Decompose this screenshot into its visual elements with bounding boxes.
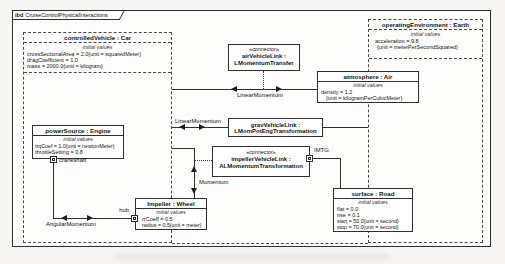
- port-inner-icon: [308, 157, 311, 160]
- value-line: {unit = kilogramPerCubicMeter}: [318, 95, 418, 101]
- connector-gravlink-earth: [323, 127, 368, 128]
- port-inner-icon: [133, 217, 136, 220]
- connector-binding-impellerlink: [195, 160, 212, 161]
- port-label-hub: hub: [112, 207, 129, 213]
- part-title: powerSource : Engine: [33, 126, 123, 136]
- part-title: atmosphere : Air: [318, 72, 418, 82]
- diagram-frame-tab: ibdCruiseControlPhysicalInteractions: [12, 10, 116, 20]
- connector-binding-airlink: [263, 71, 264, 89]
- caption-smudge: [115, 254, 390, 259]
- itemflow-arrow-left-icon: [179, 124, 185, 130]
- itemflow-arrow-down-icon: [191, 188, 197, 194]
- value-line: trqCoef = 1.0{unit = newtonMeter}: [33, 143, 123, 149]
- port-label-imtg: IMTG: [314, 147, 329, 153]
- port-hub: [131, 215, 138, 222]
- port-inner-icon: [52, 158, 55, 161]
- port-imtg: [306, 155, 313, 162]
- frame-title-label: CruiseControlPhysicalInteractions: [25, 12, 108, 18]
- connector-type: LMomentumTransfer: [229, 60, 299, 67]
- value-line: mass = 2000.0{unit = kilogram}: [24, 63, 171, 69]
- part-title: operatingEnvironment : Earth: [369, 20, 482, 30]
- stereotype-label: «connector»: [213, 149, 309, 156]
- itemflow-label-linearmomentum: LinearMomentum: [168, 118, 228, 124]
- connector-box-grav-vehicle-link: gravVehicleLink : LMomPotEngTransformati…: [228, 118, 323, 137]
- diagram-canvas: ibdCruiseControlPhysicalInteractions con…: [0, 0, 505, 264]
- part-impeller-wheel: Impeller : Wheel initial values rrCoeff …: [135, 198, 207, 230]
- value-line: {unit = meterPerSecondSquared}: [369, 44, 482, 50]
- part-power-source-engine: powerSource : Engine initial values trqC…: [32, 125, 124, 159]
- connector-box-air-vehicle-link: «connector» airVehicleLink : LMomentumTr…: [228, 44, 300, 71]
- compartment-separator: [24, 72, 171, 73]
- itemflow-label-linearmomentum: LinearMomentum: [224, 92, 296, 98]
- connector-box-impeller-vehicle-link: «connector» impellerVehicleLink : ALMome…: [212, 146, 310, 177]
- connector-type: LMomPotEngTransformation: [229, 128, 322, 135]
- part-surface-road: surface : Road initial values flat = 0.0…: [333, 188, 413, 232]
- part-title: surface : Road: [334, 189, 412, 199]
- frame-kind-label: ibd: [15, 12, 23, 18]
- connector-name: gravVehicleLink :: [229, 122, 322, 129]
- part-title: Impeller : Wheel: [136, 199, 206, 209]
- value-line: radius = 0.5{unit = meter}: [136, 222, 206, 228]
- connector-car-air: [172, 89, 317, 90]
- port-label-crankshaft: crankshaft: [59, 157, 86, 163]
- value-line: stop = 70.0{unit = second}: [334, 224, 412, 230]
- connector-name: airVehicleLink :: [229, 53, 299, 60]
- dashed-bottom-segment: [172, 243, 368, 244]
- connector-imtg-road: [340, 158, 341, 188]
- part-atmosphere-air: atmosphere : Air initial values density …: [317, 71, 419, 103]
- part-title: controlledVehicle : Car: [24, 33, 171, 43]
- connector-crankshaft-vertical: [53, 163, 54, 218]
- itemflow-label-angularmomentum: AngularMomentum: [33, 221, 109, 227]
- connector-car-wheel-horizontal: [172, 148, 195, 149]
- connector-imtg-horizontal: [313, 158, 341, 159]
- value-line: throttleSetting = 0.8: [33, 149, 123, 155]
- port-crankshaft: [50, 156, 57, 163]
- stereotype-label: «connector»: [229, 46, 299, 53]
- connector-name: impellerVehicleLink :: [213, 156, 309, 163]
- connector-type: ALMomentumTransformation: [213, 163, 309, 170]
- itemflow-label-momentum: Momentum: [199, 179, 228, 185]
- compartment-separator: [369, 58, 482, 59]
- itemflow-arrow-right-icon: [199, 124, 205, 130]
- itemflow-arrow-up-icon: [191, 166, 197, 172]
